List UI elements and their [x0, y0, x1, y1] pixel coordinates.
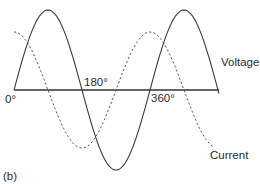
tick-label-180-deg: 180°	[84, 76, 108, 88]
panel-label: (b)	[3, 170, 17, 182]
current-label: Current	[210, 149, 249, 161]
tick-label-0-deg: 0°	[5, 93, 16, 105]
voltage-current-phase-diagram: 0° 180° 360° Voltage Current (b)	[0, 0, 260, 184]
tick-label-360-deg: 360°	[151, 92, 175, 104]
voltage-label: Voltage	[221, 56, 259, 68]
